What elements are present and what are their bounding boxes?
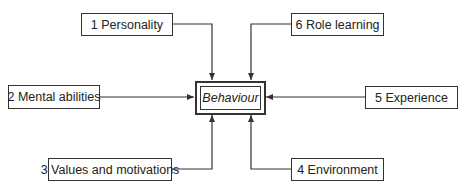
factor-label: 1 Personality bbox=[91, 18, 163, 32]
factor-label: 3 Values and motivations bbox=[41, 163, 180, 177]
factor-values-motivations: 3 Values and motivations bbox=[48, 158, 172, 181]
behaviour-inner: Behaviour bbox=[200, 86, 261, 110]
arrow-role-learning bbox=[251, 24, 291, 80]
behaviour-box: Behaviour bbox=[195, 81, 266, 115]
arrow-environment bbox=[251, 115, 291, 169]
factor-role-learning: 6 Role learning bbox=[291, 13, 384, 36]
factor-label: 2 Mental abilities bbox=[7, 90, 100, 104]
behaviour-label: Behaviour bbox=[202, 91, 258, 105]
arrow-personality bbox=[173, 24, 212, 80]
factor-label: 4 Environment bbox=[297, 163, 378, 177]
factor-label: 5 Experience bbox=[375, 91, 448, 105]
arrow-values bbox=[172, 115, 212, 169]
factor-mental-abilities: 2 Mental abilities bbox=[8, 85, 100, 109]
factor-label: 6 Role learning bbox=[295, 18, 379, 32]
factor-experience: 5 Experience bbox=[365, 86, 458, 109]
factor-personality: 1 Personality bbox=[81, 13, 173, 36]
factor-environment: 4 Environment bbox=[291, 158, 384, 181]
